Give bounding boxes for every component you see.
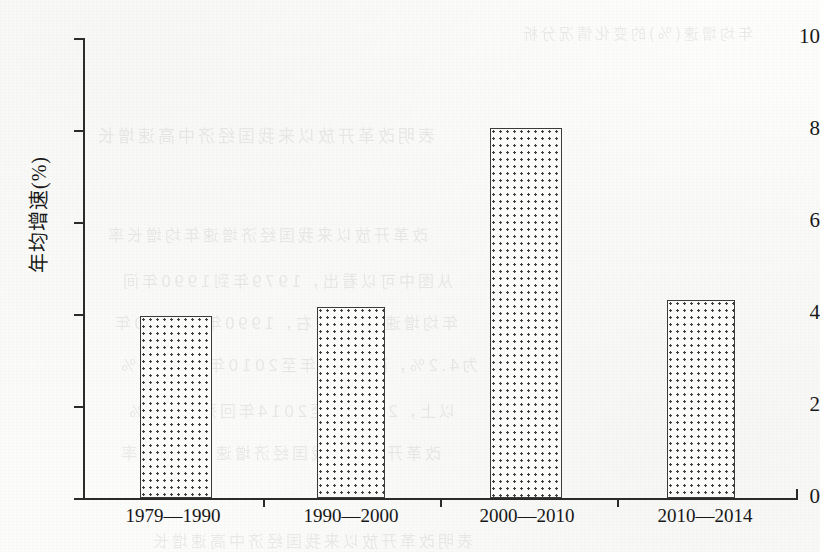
y-tick-label-4: 4 — [772, 302, 820, 323]
y-tick-2 — [74, 406, 83, 408]
y-tick-label-2: 2 — [772, 394, 820, 415]
y-tick-4 — [74, 314, 83, 316]
x-axis-label-2: 1990—2000 — [271, 505, 431, 527]
x-axis-label-3: 2000—2010 — [447, 505, 607, 527]
y-tick-label-8: 8 — [772, 118, 820, 139]
bar-2000-2010 — [490, 128, 562, 498]
y-axis-title: 年均增速(%) — [23, 145, 52, 285]
y-tick-label-10: 10 — [772, 26, 820, 47]
y-tick-10 — [74, 38, 83, 40]
y-tick-0 — [74, 498, 83, 500]
y-axis-top-cap — [83, 38, 85, 40]
bar-1990-2000 — [317, 307, 385, 498]
y-tick-label-6: 6 — [772, 210, 820, 231]
x-tick-3 — [617, 498, 619, 507]
x-tick-2 — [440, 498, 442, 507]
x-axis-label-4: 2010—2014 — [625, 505, 785, 527]
x-axis-label-1: 1979—1990 — [93, 505, 253, 527]
bar-2010-2014 — [667, 300, 735, 498]
y-tick-label-0: 0 — [772, 486, 820, 507]
x-tick-1 — [263, 498, 265, 507]
y-axis-line — [83, 38, 85, 500]
y-tick-6 — [74, 222, 83, 224]
bar-1979-1990 — [140, 316, 212, 498]
bar-chart: 10 8 6 4 2 0 1979—1990 1990—2000 2000—20… — [0, 0, 820, 552]
y-tick-8 — [74, 130, 83, 132]
